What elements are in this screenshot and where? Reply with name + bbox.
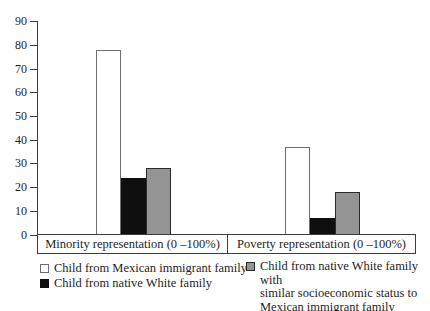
category-box-right-edge: [415, 234, 416, 253]
y-axis-tick: [30, 21, 37, 22]
bar-series1-group1: [310, 218, 335, 235]
y-axis-tick: [30, 92, 37, 93]
bar-series1-group0: [121, 178, 146, 235]
bar-series0-group0: [96, 50, 121, 235]
category-box-bottom-line: [37, 253, 416, 254]
y-axis-tick-label: 70: [3, 63, 27, 75]
y-axis-tick-label: 0: [3, 229, 27, 241]
gray-bar-swatch: [246, 262, 255, 271]
bar-series0-group1: [285, 147, 310, 235]
y-axis-tick-label: 40: [3, 134, 27, 146]
y-axis-tick-label: 50: [3, 110, 27, 122]
black-bar-swatch: [40, 279, 49, 288]
legend-item-ses-matched-white: Child from native White family with simi…: [246, 260, 430, 311]
legend-label: Child from Mexican immigrant family: [54, 261, 247, 275]
y-axis-tick: [30, 211, 37, 212]
y-axis-tick-label: 80: [3, 39, 27, 51]
white-bar-swatch: [40, 264, 49, 273]
y-axis-tick-label: 90: [3, 15, 27, 27]
y-axis-tick-label: 60: [3, 86, 27, 98]
y-axis-line: [37, 21, 38, 253]
legend-label: Child from native White family with simi…: [260, 260, 430, 311]
category-label-poverty: Poverty representation (0 –100%): [228, 235, 415, 253]
bar-series2-group0: [146, 168, 171, 234]
y-axis-tick-label: 20: [3, 181, 27, 193]
y-axis-tick-label: 10: [3, 205, 27, 217]
legend-item-native-white: Child from native White family: [40, 276, 247, 290]
y-axis-tick: [30, 235, 37, 236]
y-axis-tick: [30, 69, 37, 70]
category-label-minority: Minority representation (0 –100%): [38, 235, 227, 253]
y-axis-tick: [30, 187, 37, 188]
legend-label: Child from native White family: [54, 276, 212, 290]
y-axis-tick: [30, 116, 37, 117]
legend-left-column: Child from Mexican immigrant family Chil…: [40, 261, 247, 291]
y-axis-tick: [30, 163, 37, 164]
y-axis-tick: [30, 45, 37, 46]
y-axis-tick: [30, 140, 37, 141]
bar-series2-group1: [335, 192, 360, 235]
figure: 0102030405060708090 Minority representat…: [0, 0, 430, 311]
y-axis-tick-label: 30: [3, 157, 27, 169]
legend-item-mexican-immigrant: Child from Mexican immigrant family: [40, 261, 247, 275]
